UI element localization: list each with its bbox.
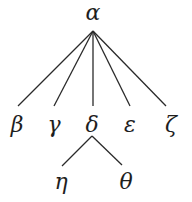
node-epsilon: ε [124,112,136,137]
node-alpha: α [86,0,101,25]
edge-alpha-beta [18,31,93,106]
tree-node-labels: αβγδεζηθ [10,0,179,194]
tree-diagram: αβγδεζηθ [0,0,192,202]
node-delta: δ [85,112,98,137]
edge-alpha-gamma [54,31,93,106]
node-zeta: ζ [165,112,179,137]
edge-delta-theta [92,136,122,165]
node-theta: θ [119,169,132,194]
node-gamma: γ [47,112,61,137]
tree-edges [18,31,166,166]
node-eta: η [54,169,67,194]
edge-alpha-zeta [93,31,166,106]
edge-alpha-epsilon [93,31,130,106]
node-beta: β [10,112,24,137]
edge-delta-eta [62,136,92,166]
